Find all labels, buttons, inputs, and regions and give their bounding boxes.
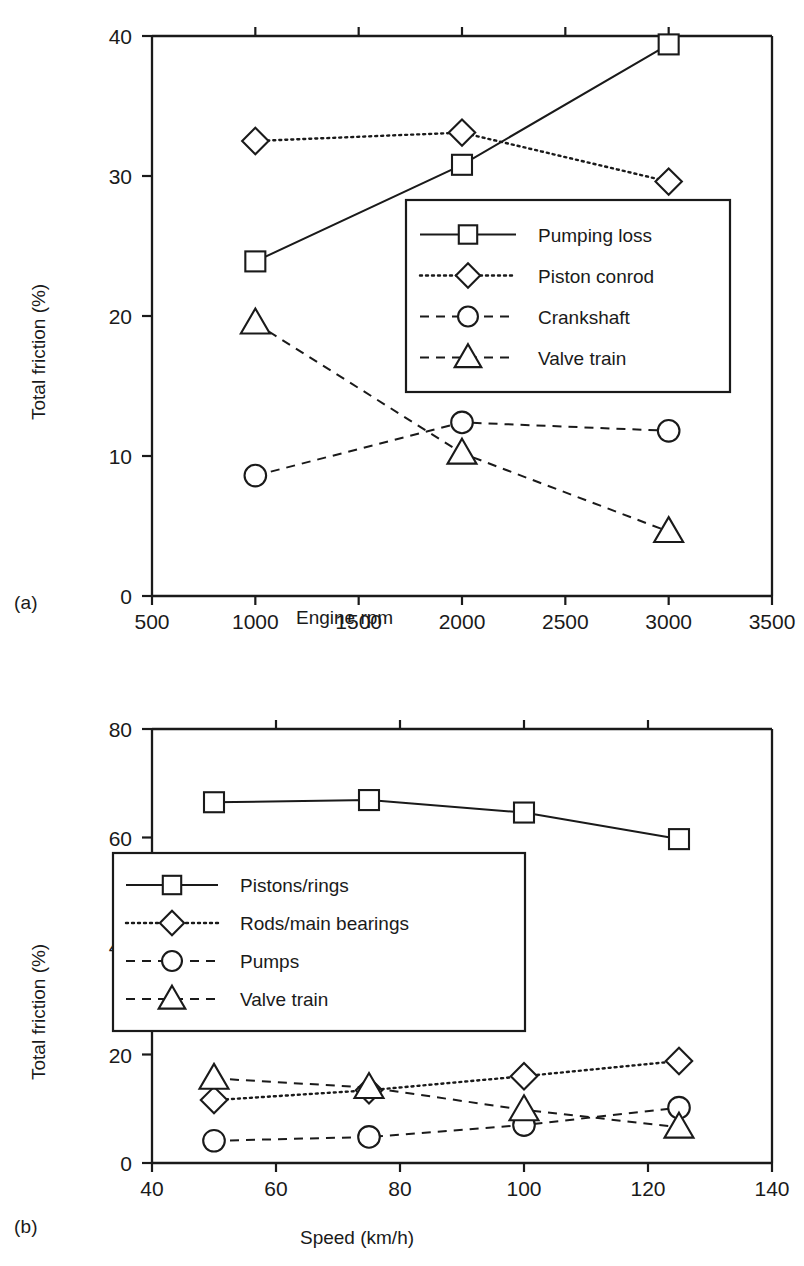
marker-triangle [654,517,683,542]
x-tick-label: 120 [630,1177,665,1200]
series-rods-main-bearings [201,1048,692,1113]
panel-a-xlabel: Engine rpm [296,607,393,629]
panel-b-ylabel: Total friction (%) [28,944,50,1080]
marker-triangle [355,1073,384,1098]
y-tick-label: 10 [109,445,132,468]
x-ticks-top [255,27,668,36]
legend-label: Pistons/rings [240,875,349,896]
x-tick-label: 140 [754,1177,789,1200]
legend-label: Rods/main bearings [240,913,409,934]
marker-circle [358,1126,380,1148]
marker-triangle [448,439,477,464]
marker-square [359,790,379,810]
marker-circle [245,465,267,487]
marker-triangle [665,1113,694,1138]
legend-label: Valve train [240,989,328,1010]
x-tick-label: 500 [134,610,169,633]
y-ticks: 010203040 [109,25,152,608]
series-valve-train [200,1064,694,1138]
marker-circle [451,412,473,434]
marker-diamond [242,128,268,154]
y-tick-label: 60 [109,827,132,850]
marker-triangle [510,1095,539,1120]
y-tick-label: 40 [109,25,132,48]
y-tick-label: 80 [109,718,132,741]
series-pistons-rings [204,790,689,849]
marker-square [204,792,224,812]
series-line [214,800,679,839]
marker-square [245,251,265,271]
marker-diamond [201,1087,227,1113]
marker-square [459,225,477,243]
x-tick-label: 3500 [749,610,796,633]
legend-label: Pumps [240,951,299,972]
legend-label: Pumping loss [538,225,652,246]
marker-square [514,803,534,823]
marker-diamond [655,168,681,194]
chart-a-canvas: 500100015002000250030003500010203040Pump… [0,0,804,640]
marker-circle [658,420,680,442]
marker-triangle [200,1064,229,1089]
series-line [214,1078,679,1127]
legend: Pistons/ringsRods/main bearingsPumpsValv… [113,853,525,1031]
marker-circle [162,951,182,971]
legend: Pumping lossPiston conrodCrankshaftValve… [406,200,730,392]
marker-square [452,155,472,175]
y-tick-label: 20 [109,1044,132,1067]
chart-b-canvas: 406080100120140020406080Pistons/ringsRod… [0,640,804,1266]
series-pumps [203,1097,690,1152]
series-line [214,1108,679,1141]
y-tick-label: 0 [120,1152,132,1175]
marker-circle [203,1130,225,1152]
y-tick-label: 20 [109,305,132,328]
series-line [214,1061,679,1100]
x-tick-label: 3000 [645,610,692,633]
x-tick-label: 2500 [542,610,589,633]
legend-label: Valve train [538,348,626,369]
y-tick-label: 0 [120,585,132,608]
marker-diamond [666,1048,692,1074]
panel-a-tag: (a) [14,592,38,614]
marker-square [163,876,181,894]
chart-panel-a: 500100015002000250030003500010203040Pump… [0,0,804,640]
x-tick-label: 100 [506,1177,541,1200]
x-tick-label: 40 [140,1177,163,1200]
chart-panel-b: 406080100120140020406080Pistons/ringsRod… [0,640,804,1266]
y-tick-label: 30 [109,165,132,188]
marker-triangle [241,309,270,334]
marker-diamond [449,119,475,145]
x-ticks: 500100015002000250030003500 [134,596,795,633]
legend-label: Piston conrod [538,266,654,287]
x-tick-label: 2000 [439,610,486,633]
marker-circle [458,307,478,327]
x-ticks: 406080100120140 [140,1163,789,1200]
panel-a-ylabel: Total friction (%) [28,284,50,420]
marker-diamond [511,1063,537,1089]
x-ticks-top [276,720,648,729]
legend-label: Crankshaft [538,307,631,328]
x-tick-label: 60 [264,1177,287,1200]
marker-square [669,829,689,849]
x-tick-label: 80 [388,1177,411,1200]
panel-b-xlabel: Speed (km/h) [300,1227,414,1249]
panel-b-tag: (b) [14,1216,38,1238]
figure-page: 500100015002000250030003500010203040Pump… [0,0,804,1266]
marker-square [659,34,679,54]
x-tick-label: 1000 [232,610,279,633]
